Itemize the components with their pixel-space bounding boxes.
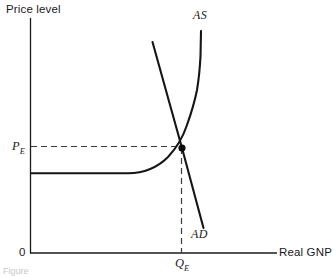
diagram-canvas <box>0 0 333 276</box>
equilibrium-quantity-label: QE <box>175 257 189 272</box>
figure-caption-partial: Figure <box>3 267 123 276</box>
equilibrium-point-marker <box>178 144 185 151</box>
as-ad-diagram: Price level Real GNP 0 AS AD PE QE Figur… <box>0 0 333 276</box>
equilibrium-quantity-subscript: E <box>184 263 189 273</box>
equilibrium-price-subscript: E <box>20 146 25 156</box>
as-curve <box>31 31 201 173</box>
x-axis-label: Real GNP <box>279 247 332 259</box>
ad-curve-label: AD <box>191 228 208 240</box>
equilibrium-price-label: PE <box>12 140 25 155</box>
equilibrium-price-symbol: P <box>12 139 20 153</box>
as-curve-label: AS <box>193 9 207 21</box>
y-axis-label: Price level <box>6 4 61 16</box>
equilibrium-quantity-symbol: Q <box>175 256 184 270</box>
ad-curve <box>153 42 204 228</box>
origin-label: 0 <box>19 247 25 259</box>
